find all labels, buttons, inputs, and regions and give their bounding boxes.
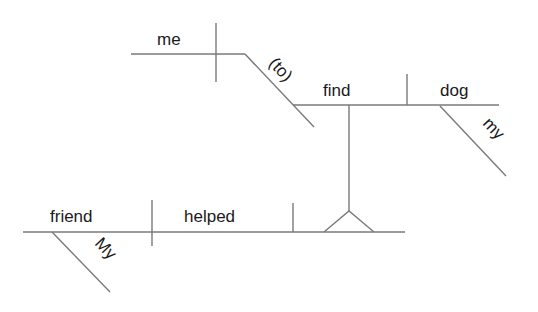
word-me: me [157, 30, 181, 49]
word-dog: dog [440, 81, 468, 100]
word-my: my [479, 114, 509, 144]
sentence-diagram: me (to) find dog my friend My helped [0, 0, 538, 312]
word-friend: friend [50, 207, 93, 226]
pedestal-base [324, 211, 374, 232]
word-find: find [323, 81, 350, 100]
word-helped: helped [184, 207, 235, 226]
word-My: My [91, 234, 121, 264]
